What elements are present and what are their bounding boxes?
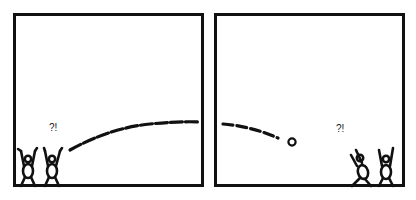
stick-figure-icon (379, 148, 393, 186)
stick-figure-icon (44, 148, 62, 186)
ball-trajectory-left (70, 122, 200, 150)
stick-figure-icon (351, 150, 371, 186)
stick-figure-icon (18, 148, 37, 186)
ball-trajectory-right (223, 124, 278, 138)
ball-icon (288, 138, 295, 145)
comic-artwork (0, 0, 416, 200)
